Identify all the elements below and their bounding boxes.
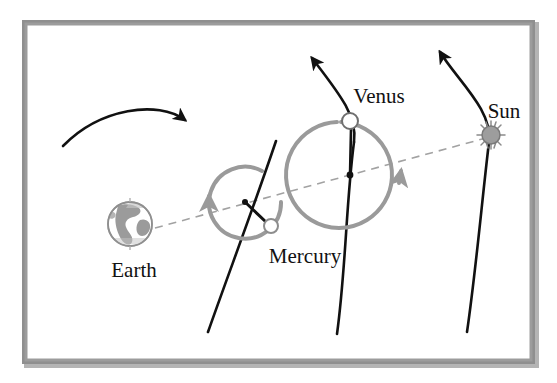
sun-body: [477, 121, 505, 149]
frame-inner-fill: [27, 25, 530, 359]
venus-body: [342, 113, 358, 129]
astronomy-diagram: Earth Mercury Venus Sun: [0, 0, 557, 383]
earth-label: Earth: [111, 258, 157, 282]
venus-label: Venus: [353, 84, 404, 108]
sun-label: Sun: [488, 99, 521, 123]
mercury-label: Mercury: [269, 244, 342, 268]
mercury-body: [264, 219, 278, 233]
